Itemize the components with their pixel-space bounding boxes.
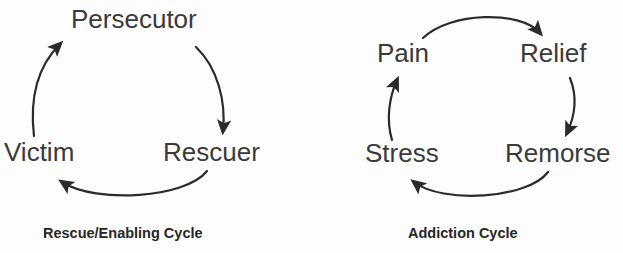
diagram-canvas: Persecutor Victim Rescuer Rescue/Enablin… <box>0 0 623 253</box>
caption-addiction-cycle: Addiction Cycle <box>408 226 518 241</box>
rescue-enabling-cycle-diagram: Persecutor Victim Rescuer Rescue/Enablin… <box>0 0 300 253</box>
node-label-stress: Stress <box>365 140 439 166</box>
node-label-relief: Relief <box>520 40 586 66</box>
arrow-persecutor-to-rescuer <box>196 47 224 131</box>
caption-rescue-enabling-cycle: Rescue/Enabling Cycle <box>43 226 203 241</box>
node-label-remorse: Remorse <box>505 140 610 166</box>
node-label-persecutor: Persecutor <box>71 6 197 32</box>
arrow-rescuer-to-victim <box>62 171 207 195</box>
node-label-victim: Victim <box>4 139 74 165</box>
arrow-remorse-to-stress <box>414 172 548 196</box>
arrow-victim-to-persecutor <box>33 44 60 136</box>
arrow-pain-to-relief <box>423 17 540 38</box>
addiction-cycle-diagram: Pain Relief Stress Remorse Addiction Cyc… <box>330 0 623 253</box>
node-label-pain: Pain <box>377 40 429 66</box>
arrow-stress-to-pain <box>389 80 397 140</box>
node-label-rescuer: Rescuer <box>163 139 260 165</box>
rescue-cycle-arrows <box>0 0 300 253</box>
arrow-relief-to-remorse <box>567 78 574 133</box>
